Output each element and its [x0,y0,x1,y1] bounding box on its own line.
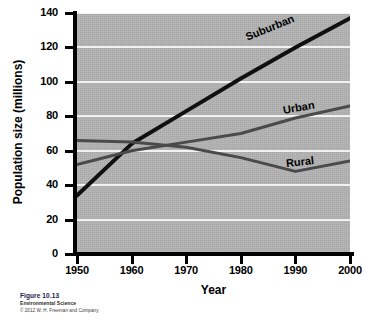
x-axis-tick [294,256,297,264]
y-axis-title: Population size (millions) [11,32,25,232]
series-lines-group [77,13,350,254]
x-axis-title: Year [77,283,350,297]
x-axis-tick-label: 1990 [272,264,318,276]
x-axis-tick [349,256,352,264]
y-axis-tick-label: 140 [0,6,67,18]
plot-area [77,13,350,254]
x-axis-tick-label: 1970 [163,264,209,276]
x-axis-tick-label: 2000 [327,264,373,276]
caption-figure-number: Figure 10.13 [20,292,99,300]
x-axis-tick-label: 1960 [109,264,155,276]
x-axis-tick [185,256,188,264]
x-axis-tick [240,256,243,264]
y-axis-tick-label: 0 [0,247,67,259]
x-axis-tick [76,256,79,264]
figure-container: 020406080100120140 195019601970198019902… [0,0,374,329]
figure-caption: Figure 10.13 Environmental Science © 201… [20,292,99,314]
x-axis-tick-label: 1980 [218,264,264,276]
x-axis-tick-label: 1950 [54,264,100,276]
caption-copyright: © 2012 W. H. Freeman and Company [20,307,99,314]
x-axis-spine [73,252,354,256]
caption-book-title: Environmental Science [20,300,99,307]
x-axis-tick [131,256,134,264]
